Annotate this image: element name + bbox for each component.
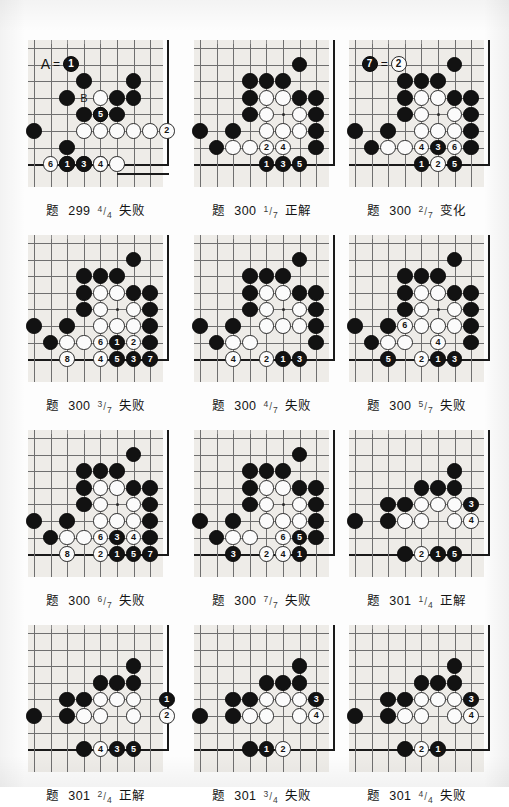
grid-tick [100, 430, 101, 434]
grid-line-v [217, 40, 218, 187]
diagram-caption: 题3012/4正解 [28, 785, 163, 804]
caption-fraction: 1/7 [264, 207, 278, 217]
stone-black [397, 107, 413, 123]
star-point [116, 503, 119, 506]
grid-line-h [28, 260, 163, 261]
grid-tick [372, 625, 373, 629]
grid-tick [84, 235, 85, 239]
move-stone-black-1: 1 [259, 156, 275, 172]
caption-problem-number: 301 [389, 594, 411, 608]
stone-black [259, 268, 275, 284]
grid-tick [372, 430, 373, 434]
stone-black [275, 675, 291, 691]
go-board[interactable]: 4361257=2 [349, 40, 484, 187]
board-edge-right [333, 430, 335, 556]
grid-tick [405, 235, 406, 239]
stone-black [275, 73, 291, 89]
go-board[interactable]: 61284537 [28, 235, 163, 382]
stone-black [463, 318, 479, 334]
stone-white [76, 530, 92, 546]
move-stone-white-8: 8 [59, 546, 75, 562]
stone-black [414, 480, 430, 496]
star-point [282, 308, 285, 311]
stone-black [26, 708, 42, 724]
grid-tick [250, 625, 251, 629]
stone-black [275, 463, 291, 479]
grid-line-v [150, 625, 151, 772]
go-board[interactable]: 613452BA=1 [28, 40, 163, 187]
grid-line-h [349, 260, 484, 261]
go-diagram-d8: 653241题3007/7失败 [194, 430, 329, 615]
board-edge-right [333, 40, 335, 166]
stone-black [347, 123, 363, 139]
stone-black [430, 268, 446, 284]
stone-black [242, 302, 258, 318]
move-stone-white-4: 4 [275, 546, 291, 562]
stone-black [447, 285, 463, 301]
grid-tick [84, 625, 85, 629]
stone-black [109, 463, 125, 479]
move-stone-black-3: 3 [463, 692, 479, 708]
stone-black [308, 285, 324, 301]
caption-result: 正解 [285, 204, 311, 218]
go-board[interactable]: 12435 [28, 625, 163, 772]
stone-black [242, 268, 258, 284]
caption-fraction: 3/4 [264, 792, 278, 802]
stone-white [292, 318, 308, 334]
stone-black [463, 90, 479, 106]
stone-white [76, 708, 92, 724]
go-board[interactable]: 653241 [194, 430, 329, 577]
go-board[interactable]: 34215 [349, 430, 484, 577]
grid-line-h [349, 455, 484, 456]
stone-black [447, 675, 463, 691]
stone-white [292, 123, 308, 139]
stone-white [275, 123, 291, 139]
move-stone-white-2: 2 [414, 741, 430, 757]
grid-line-v [372, 625, 373, 772]
star-point [437, 113, 440, 116]
caption-result: 失败 [440, 399, 466, 413]
go-board[interactable]: 645213 [349, 235, 484, 382]
grid-line-v [34, 235, 35, 382]
note-stone-black: 7 [362, 56, 378, 72]
stone-white [397, 513, 413, 529]
caption-fraction-denominator: 7 [427, 405, 433, 415]
stone-white [259, 318, 275, 334]
stone-white [414, 285, 430, 301]
caption-prefix: 题 [367, 594, 380, 608]
go-board[interactable]: 4213 [194, 235, 329, 382]
grid-line-v [217, 235, 218, 382]
stone-black [142, 480, 158, 496]
caption-prefix: 题 [212, 789, 225, 803]
diagram-caption: 题3003/7失败 [28, 395, 163, 414]
go-board[interactable]: 24135 [194, 40, 329, 187]
stone-black [192, 318, 208, 334]
go-board[interactable]: 3421 [349, 625, 484, 772]
grid-tick [372, 40, 373, 44]
stone-black [414, 675, 430, 691]
grid-line-v [150, 40, 151, 187]
caption-prefix: 题 [46, 594, 59, 608]
stone-black [242, 463, 258, 479]
grid-line-v [34, 430, 35, 577]
caption-fraction-numerator: 4 [419, 789, 425, 799]
go-diagram-d6: 645213题3005/7失败 [349, 235, 484, 420]
go-board[interactable]: 63482157 [28, 430, 163, 577]
stone-white [275, 285, 291, 301]
caption-fraction-denominator: 4 [106, 795, 112, 805]
move-stone-black-3: 3 [308, 692, 324, 708]
caption-fraction: 2/7 [419, 207, 433, 217]
stone-white [126, 513, 142, 529]
stone-black [59, 692, 75, 708]
grid-line-v [200, 430, 201, 577]
caption-problem-number: 300 [68, 399, 90, 413]
grid-tick [405, 625, 406, 629]
grid-tick [51, 625, 52, 629]
stone-white [414, 708, 430, 724]
stone-black [380, 318, 396, 334]
go-board[interactable]: 3412 [194, 625, 329, 772]
caption-fraction-numerator: 5 [419, 399, 425, 409]
go-diagram-d2: 24135题3001/7正解 [194, 40, 329, 225]
stone-white [126, 318, 142, 334]
